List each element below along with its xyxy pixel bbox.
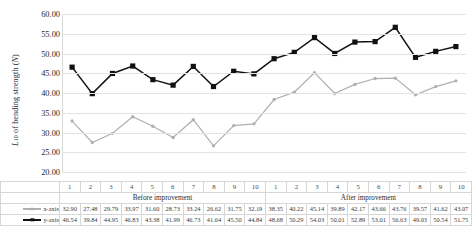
data-point-y-axis [130, 63, 135, 68]
table-cell: 42.17 [348, 204, 369, 215]
column-header: 7 [389, 182, 410, 193]
table-cell: 48.68 [265, 215, 286, 226]
table-cell: 51.75 [451, 215, 472, 226]
table-cell: 38.35 [265, 204, 286, 215]
table-cell: 43.76 [389, 204, 410, 215]
header-corner-cell [1, 182, 60, 193]
table-cell: 56.63 [389, 215, 410, 226]
y-tick-label: 40.00 [20, 89, 60, 98]
y-tick-label: 60.00 [20, 10, 60, 19]
table-cell: 44.95 [101, 215, 122, 226]
data-point-x-axis [192, 118, 195, 121]
legend-swatch-icon [23, 219, 41, 220]
table-cell: 41.64 [204, 215, 225, 226]
group-row-spacer [1, 193, 60, 204]
data-point-x-axis [252, 122, 255, 125]
legend-swatch-icon [23, 208, 41, 209]
table-cell: 52.89 [348, 215, 369, 226]
column-header: 7 [183, 182, 204, 193]
column-header: 1 [60, 182, 81, 193]
gridline [62, 34, 466, 35]
table-cell: 41.99 [162, 215, 183, 226]
gridline [62, 152, 466, 153]
column-header: 9 [430, 182, 451, 193]
table-cell: 32.90 [60, 204, 81, 215]
table-cell: 40.22 [286, 204, 307, 215]
gridline [62, 54, 466, 55]
table-cell: 28.73 [162, 204, 183, 215]
data-point-x-axis [454, 79, 457, 82]
data-point-x-axis [131, 115, 134, 118]
table-cell: 33.24 [183, 204, 204, 215]
table-row: y-axis46.5439.8444.9546.8343.3841.9946.7… [1, 215, 472, 226]
column-header: 4 [327, 182, 348, 193]
data-point-x-axis [272, 98, 275, 101]
legend-label: y-axis [43, 215, 59, 225]
legend-entry-y-axis: y-axis [1, 215, 60, 226]
table-cell: 32.19 [245, 204, 266, 215]
y-tick-label: 25.00 [20, 148, 60, 157]
gridline [62, 93, 466, 94]
data-point-y-axis [373, 39, 378, 44]
table-cell: 27.48 [80, 204, 101, 215]
column-header: 6 [162, 182, 183, 193]
column-header: 9 [224, 182, 245, 193]
table-cell: 44.84 [245, 215, 266, 226]
table-cell: 50.29 [286, 215, 307, 226]
table-cell: 49.03 [410, 215, 431, 226]
gridline [62, 73, 466, 74]
gridline [62, 113, 466, 114]
table-cell: 39.89 [327, 204, 348, 215]
series-line-x-axis [72, 73, 456, 146]
table-cell: 54.03 [307, 215, 328, 226]
column-header: 5 [142, 182, 163, 193]
table-cell: 41.62 [430, 204, 451, 215]
group-label: Before improvement [60, 193, 266, 204]
gridline [62, 14, 466, 15]
data-point-y-axis [150, 77, 155, 82]
table-cell: 45.14 [307, 204, 328, 215]
table-cell: 46.54 [60, 215, 81, 226]
table-cell: 39.84 [80, 215, 101, 226]
data-point-y-axis [70, 65, 75, 70]
y-tick-label: 55.00 [20, 29, 60, 38]
chart-plot-region: L10 of bending strength (N) 60.0055.0050… [0, 0, 472, 186]
table-cell: 33.97 [121, 204, 142, 215]
data-point-y-axis [393, 25, 398, 30]
column-header: 10 [451, 182, 472, 193]
data-table-region: 1234567891012345678910 Before improvemen… [0, 181, 472, 245]
data-point-y-axis [211, 84, 216, 89]
table-row: x-axis32.9027.4829.7933.9731.6028.7333.2… [1, 204, 472, 215]
data-point-y-axis [453, 44, 458, 49]
column-header: 6 [368, 182, 389, 193]
data-point-y-axis [413, 55, 418, 60]
table-cell: 46.83 [121, 215, 142, 226]
column-header: 3 [101, 182, 122, 193]
data-point-x-axis [70, 119, 73, 122]
table-cell: 43.66 [368, 204, 389, 215]
data-point-y-axis [171, 83, 176, 88]
table-cell: 31.60 [142, 204, 163, 215]
table-body: Before improvementAfter improvementx-axi… [1, 193, 472, 226]
column-header: 2 [80, 182, 101, 193]
data-point-x-axis [91, 141, 94, 144]
group-label-row: Before improvementAfter improvement [1, 193, 472, 204]
data-point-y-axis [352, 39, 357, 44]
table-cell: 53.01 [368, 215, 389, 226]
data-table: 1234567891012345678910 Before improvemen… [0, 181, 472, 226]
data-point-x-axis [232, 124, 235, 127]
data-point-x-axis [373, 77, 376, 80]
table-cell: 50.54 [430, 215, 451, 226]
table-cell: 45.50 [224, 215, 245, 226]
gridline [62, 172, 466, 173]
column-header: 10 [245, 182, 266, 193]
table-cell: 43.38 [142, 215, 163, 226]
table-cell: 43.07 [451, 204, 472, 215]
data-point-y-axis [272, 56, 277, 61]
table-header-row: 1234567891012345678910 [1, 182, 472, 193]
data-point-x-axis [212, 144, 215, 147]
table-cell: 26.62 [204, 204, 225, 215]
column-header: 2 [286, 182, 307, 193]
table-cell: 46.73 [183, 215, 204, 226]
data-point-x-axis [394, 76, 397, 79]
